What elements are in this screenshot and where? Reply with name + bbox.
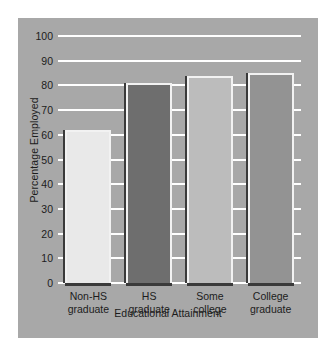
- x-axis-category-label-line: Some: [193, 290, 226, 303]
- gridline: [58, 60, 301, 62]
- y-axis-tick-label: 60: [41, 129, 53, 141]
- bar: Collegegraduate: [248, 73, 294, 283]
- plot-area: 0102030405060708090100Non-HSgraduateHSgr…: [58, 36, 301, 283]
- bar: Non-HSgraduate: [65, 130, 111, 283]
- bar: Somecollege: [187, 76, 233, 283]
- y-axis-tick-label: 40: [41, 178, 53, 190]
- y-axis-tick-label: 100: [35, 30, 53, 42]
- y-axis-tick-label: 20: [41, 228, 53, 240]
- x-axis-title: Educational Attainment: [18, 307, 318, 319]
- chart-plot-panel: Percentage Employed 01020304050607080901…: [18, 18, 318, 338]
- y-axis-tick-label: 70: [41, 104, 53, 116]
- x-axis-category-label-line: Non-HS: [68, 290, 109, 303]
- y-axis-tick-label: 10: [41, 252, 53, 264]
- bar-chart-figure: Percentage Employed 01020304050607080901…: [0, 0, 335, 354]
- y-axis-tick-label: 50: [41, 154, 53, 166]
- y-axis-tick-label: 80: [41, 79, 53, 91]
- bar: HSgraduate: [126, 83, 172, 283]
- y-axis-tick-label: 0: [47, 277, 53, 289]
- y-axis-title: Percentage Employed: [28, 70, 40, 230]
- x-axis-category-label-line: College: [250, 290, 291, 303]
- gridline: [58, 35, 301, 37]
- y-axis-tick-label: 90: [41, 55, 53, 67]
- x-axis-category-label-line: HS: [128, 290, 169, 303]
- y-axis-tick-label: 30: [41, 203, 53, 215]
